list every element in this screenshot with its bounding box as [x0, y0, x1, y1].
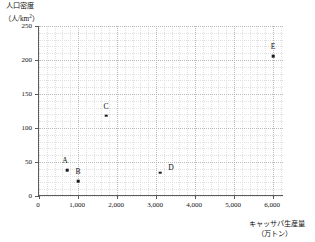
tick-mark-y [35, 26, 39, 27]
gridline-minor-horizontal [39, 162, 283, 163]
gridline-minor-vertical [203, 26, 204, 195]
gridline-major-vertical [156, 26, 157, 195]
tick-label-y: 150 [6, 90, 32, 98]
gridline-major-horizontal [39, 26, 283, 27]
gridline-minor-vertical [125, 26, 126, 195]
tick-label-x: 2,000 [108, 201, 124, 209]
gridline-minor-horizontal [39, 189, 283, 190]
gridline-minor-horizontal [39, 182, 283, 183]
gridline-minor-vertical [62, 26, 63, 195]
tick-mark-y [35, 128, 39, 129]
data-point-label: D [168, 163, 173, 172]
gridline-minor-vertical [133, 26, 134, 195]
tick-mark-x [78, 195, 79, 199]
gridline-minor-vertical [39, 26, 40, 195]
data-point-marker [272, 55, 275, 58]
x-axis-title-line2: （万トン） [257, 230, 292, 240]
gridline-minor-horizontal [39, 135, 283, 136]
tick-mark-x [234, 195, 235, 199]
gridline-minor-horizontal [39, 87, 283, 88]
tick-mark-y [35, 196, 39, 197]
gridline-major-vertical [234, 26, 235, 195]
gridline-major-horizontal [39, 128, 283, 129]
gridline-minor-horizontal [39, 196, 283, 197]
gridline-major-horizontal [39, 60, 283, 61]
tick-label-y: 200 [6, 56, 32, 64]
gridline-minor-vertical [179, 26, 180, 195]
gridline-minor-vertical [148, 26, 149, 195]
gridline-minor-vertical [47, 26, 48, 195]
tick-mark-x [195, 195, 196, 199]
tick-label-x: 3,000 [147, 201, 163, 209]
gridline-minor-horizontal [39, 94, 283, 95]
y-axis-unit-close-paren: ） [32, 15, 39, 23]
tick-label-y: 0 [6, 192, 32, 200]
gridline-minor-vertical [101, 26, 102, 195]
gridline-minor-vertical [226, 26, 227, 195]
gridline-minor-horizontal [39, 128, 283, 129]
tick-label-x: 6,000 [264, 201, 280, 209]
gridline-minor-horizontal [39, 80, 283, 81]
tick-label-y: 100 [6, 124, 32, 132]
x-axis-title-line1: キャッサバ生産量 [249, 220, 305, 230]
data-point-label: B [75, 167, 80, 176]
gridline-minor-vertical [273, 26, 274, 195]
gridline-minor-vertical [195, 26, 196, 195]
data-point-marker [66, 169, 69, 172]
gridline-major-vertical [117, 26, 118, 195]
gridline-minor-horizontal [39, 148, 283, 149]
tick-label-x: 1,000 [69, 201, 85, 209]
gridline-major-vertical [273, 26, 274, 195]
gridline-minor-vertical [94, 26, 95, 195]
gridline-minor-vertical [211, 26, 212, 195]
gridline-minor-vertical [281, 26, 282, 195]
gridline-minor-horizontal [39, 121, 283, 122]
gridline-minor-horizontal [39, 108, 283, 109]
data-point-marker [77, 180, 80, 183]
tick-label-x: 4,000 [186, 201, 202, 209]
tick-mark-x [273, 195, 274, 199]
gridline-minor-vertical [86, 26, 87, 195]
gridline-minor-vertical [55, 26, 56, 195]
gridline-minor-vertical [265, 26, 266, 195]
gridline-minor-vertical [164, 26, 165, 195]
tick-mark-y [35, 60, 39, 61]
gridline-major-horizontal [39, 162, 283, 163]
tick-mark-x [39, 195, 40, 199]
gridline-minor-vertical [109, 26, 110, 195]
data-point-marker [159, 172, 162, 175]
tick-mark-y [35, 94, 39, 95]
gridline-major-vertical [195, 26, 196, 195]
gridline-minor-horizontal [39, 26, 283, 27]
gridline-minor-horizontal [39, 46, 283, 47]
gridline-minor-vertical [117, 26, 118, 195]
gridline-minor-horizontal [39, 142, 283, 143]
y-axis-title-line1: 人口密度 [6, 2, 34, 12]
gridline-minor-vertical [70, 26, 71, 195]
tick-label-x: 0 [36, 201, 40, 209]
gridline-major-horizontal [39, 94, 283, 95]
gridline-minor-horizontal [39, 101, 283, 102]
data-point-label: C [104, 102, 109, 111]
data-point-label: A [62, 156, 67, 165]
tick-label-x: 5,000 [225, 201, 241, 209]
gridline-minor-vertical [156, 26, 157, 195]
tick-mark-x [156, 195, 157, 199]
gridline-minor-horizontal [39, 67, 283, 68]
gridline-minor-vertical [218, 26, 219, 195]
gridline-minor-vertical [187, 26, 188, 195]
gridline-minor-vertical [257, 26, 258, 195]
tick-label-y: 50 [6, 158, 32, 166]
gridline-minor-vertical [140, 26, 141, 195]
data-point-label: E [271, 42, 276, 51]
scatter-chart-figure: 人口密度 （人/km2） キャッサバ生産量 （万トン） ABCDE 01,000… [0, 0, 315, 242]
gridline-minor-horizontal [39, 40, 283, 41]
gridline-minor-vertical [234, 26, 235, 195]
gridline-minor-horizontal [39, 60, 283, 61]
tick-mark-y [35, 162, 39, 163]
gridline-minor-vertical [242, 26, 243, 195]
gridline-minor-horizontal [39, 33, 283, 34]
gridline-minor-horizontal [39, 155, 283, 156]
plot-area: ABCDE [38, 26, 283, 196]
gridline-minor-vertical [250, 26, 251, 195]
